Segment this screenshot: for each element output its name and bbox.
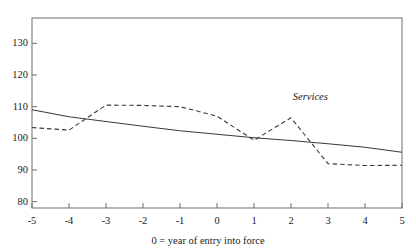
series-label-services: Services xyxy=(293,91,328,102)
x-tick-label: 4 xyxy=(353,216,377,227)
chart-container: 8090100110120130 -5-4-3-2-1012345 Servic… xyxy=(0,0,416,249)
x-tick-label: -3 xyxy=(94,216,118,227)
plot-border xyxy=(32,18,402,208)
series-line-services xyxy=(32,105,402,165)
y-tick-label: 80 xyxy=(4,197,28,208)
x-tick-label: 2 xyxy=(279,216,303,227)
series-line-goods xyxy=(32,110,402,152)
x-tick-label: 5 xyxy=(390,216,414,227)
x-tick-label: 0 xyxy=(205,216,229,227)
x-tick-label: -2 xyxy=(131,216,155,227)
y-tick-label: 100 xyxy=(4,133,28,144)
y-tick-label: 110 xyxy=(4,102,28,113)
x-tick-marks xyxy=(32,203,402,208)
x-axis-title: 0 = year of entry into force xyxy=(0,235,416,246)
y-tick-marks xyxy=(32,43,37,201)
x-tick-label: -4 xyxy=(57,216,81,227)
y-tick-label: 130 xyxy=(4,38,28,49)
x-tick-label: -1 xyxy=(168,216,192,227)
plot-frame xyxy=(32,18,402,208)
y-tick-label: 120 xyxy=(4,70,28,81)
x-tick-label: -5 xyxy=(20,216,44,227)
y-tick-label: 90 xyxy=(4,165,28,176)
x-tick-label: 3 xyxy=(316,216,340,227)
x-tick-label: 1 xyxy=(242,216,266,227)
chart-plot-area xyxy=(0,0,416,249)
